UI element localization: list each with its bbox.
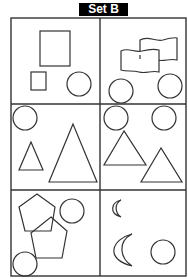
cell-row2-col1	[13, 106, 97, 182]
large-triangle-shape	[49, 124, 97, 182]
shape-grid	[0, 0, 188, 279]
circle-shape	[152, 106, 176, 130]
circle-shape	[60, 199, 84, 223]
large-crescent-shape	[114, 234, 132, 266]
small-crescent-shape	[113, 200, 121, 217]
cell-row2-col2	[104, 106, 182, 182]
triangle-shape	[104, 131, 146, 165]
triangle-shape	[141, 148, 182, 182]
pentagon-shape	[31, 217, 67, 258]
small-square-shape	[31, 72, 46, 90]
cell-row1-col1	[31, 31, 91, 96]
circle-shape	[104, 106, 128, 130]
circle-shape	[13, 252, 37, 276]
cell-row3-col1	[13, 194, 84, 276]
circle-shape	[158, 74, 182, 98]
circle-shape	[109, 79, 133, 103]
circle-shape	[13, 106, 37, 130]
circle-shape	[67, 72, 91, 96]
cell-row3-col2	[113, 200, 175, 266]
cell-row1-col2	[109, 38, 182, 103]
circle-shape	[151, 240, 175, 264]
small-triangle-shape	[19, 142, 43, 170]
pentagon-shape	[19, 194, 55, 231]
large-square-shape	[40, 31, 70, 66]
flag-shape	[121, 49, 159, 72]
